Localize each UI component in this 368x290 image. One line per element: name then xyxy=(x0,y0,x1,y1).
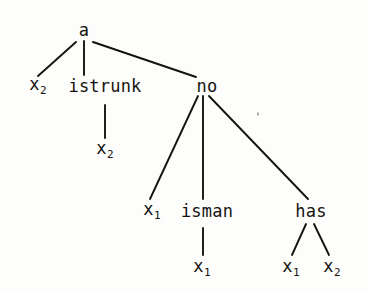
tree-node-x1_a: x1 xyxy=(143,201,160,221)
tree-node-subscript: 2 xyxy=(334,266,341,279)
tree-node-subscript: 2 xyxy=(40,84,47,97)
tree-node-label: a xyxy=(79,20,89,40)
tree-node-x2_c: x2 xyxy=(96,140,113,160)
tree-node-label: x xyxy=(96,138,106,158)
tree-edge xyxy=(209,96,308,199)
tree-diagram: ax2istrunknox2x1ismanhasx1x1x2 xyxy=(0,0,368,290)
tree-node-label: x xyxy=(323,256,333,276)
tree-node-label: isman xyxy=(181,201,233,221)
tree-node-label: has xyxy=(295,201,326,221)
tree-node-label: istrunk xyxy=(68,76,141,96)
tree-node-a: a xyxy=(79,22,89,39)
tree-node-x2_l: x2 xyxy=(29,76,46,96)
tree-node-label: x xyxy=(282,256,292,276)
tree-node-istrunk: istrunk xyxy=(68,78,141,95)
tree-node-no: no xyxy=(197,78,218,95)
tree-node-label: x xyxy=(143,199,153,219)
tree-node-label: x xyxy=(29,74,39,94)
tree-node-label: x xyxy=(193,256,203,276)
tree-edge xyxy=(150,96,198,199)
tree-node-subscript: 1 xyxy=(204,266,211,279)
tree-node-x1_c: x1 xyxy=(282,258,299,278)
tree-edge xyxy=(314,224,329,255)
tree-node-subscript: 1 xyxy=(293,266,300,279)
tree-edge xyxy=(292,224,306,255)
tree-edge-layer xyxy=(0,0,368,290)
tree-node-has: has xyxy=(295,203,326,220)
tree-edge xyxy=(93,42,196,77)
tree-node-subscript: 2 xyxy=(107,148,114,161)
tree-node-label: no xyxy=(197,76,218,96)
tree-node-x2_r: x2 xyxy=(323,258,340,278)
tree-edge xyxy=(38,42,76,76)
tree-node-x1_b: x1 xyxy=(193,258,210,278)
scan-speck-icon xyxy=(257,113,259,116)
tree-node-subscript: 1 xyxy=(154,209,161,222)
tree-node-isman: isman xyxy=(181,203,233,220)
